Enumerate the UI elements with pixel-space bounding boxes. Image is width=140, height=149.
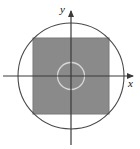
y-axis-label: y — [59, 3, 65, 15]
x-axis-label: x — [127, 77, 133, 89]
math-figure: y x — [0, 0, 140, 149]
figure-canvas: y x — [0, 0, 140, 149]
